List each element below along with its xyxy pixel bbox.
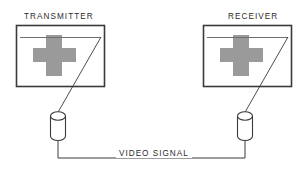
receiver-label: RECEIVER: [228, 13, 278, 21]
transmitter-group: [17, 26, 105, 115]
transmitter-cylinder-top: [51, 112, 66, 120]
transmitter-label: TRANSMITTER: [24, 13, 94, 21]
video-signal-label: VIDEO SIGNAL: [116, 150, 192, 158]
diagram-canvas: [0, 0, 306, 173]
transmitter-cylinder-probe: [51, 112, 66, 158]
receiver-cylinder-top: [238, 112, 253, 120]
receiver-group: [204, 26, 292, 115]
video-signal-diagram: TRANSMITTER RECEIVER VIDEO SIGNAL: [0, 0, 306, 173]
receiver-cylinder-probe: [238, 112, 253, 158]
